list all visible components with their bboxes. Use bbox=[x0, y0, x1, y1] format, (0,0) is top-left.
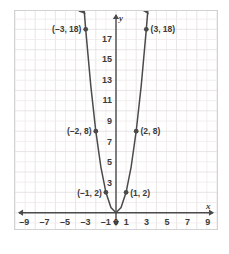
y-tick-label: 3 bbox=[107, 178, 112, 187]
y-tick-label: 5 bbox=[107, 158, 112, 167]
parabola-path bbox=[84, 11, 148, 213]
plotted-point-p-neg3 bbox=[83, 27, 88, 32]
x-tick-label: 5 bbox=[164, 218, 169, 227]
plot-frame bbox=[14, 10, 218, 230]
y-tick-label: 7 bbox=[107, 137, 112, 146]
y-tick-label: 15 bbox=[102, 55, 112, 64]
plotted-point-p-pos3 bbox=[144, 27, 149, 32]
x-tick-label: –1 bbox=[101, 218, 111, 227]
x-tick-label: –3 bbox=[80, 218, 90, 227]
y-tick-label: 9 bbox=[107, 117, 112, 126]
x-tick-label: 1 bbox=[124, 218, 129, 227]
plotted-point-p-pos1 bbox=[124, 190, 129, 195]
x-tick-label: –5 bbox=[60, 218, 70, 227]
y-tick-label: 17 bbox=[102, 34, 112, 43]
x-tick-label: 9 bbox=[205, 218, 210, 227]
point-label-p-pos1: (1, 2) bbox=[130, 189, 150, 198]
plotted-point-p-neg1 bbox=[104, 190, 109, 195]
x-axis-name: x bbox=[206, 202, 211, 211]
x-tick-label: 3 bbox=[144, 218, 149, 227]
y-axis-name: y bbox=[119, 14, 123, 23]
point-label-p-neg3: (–3, 18) bbox=[52, 24, 81, 33]
point-label-p-neg2: (–2, 8) bbox=[67, 127, 92, 136]
y-tick-label: 11 bbox=[102, 96, 112, 105]
point-label-p-neg1: (–1, 2) bbox=[77, 189, 102, 198]
x-tick-label: –9 bbox=[19, 218, 29, 227]
graph-figure: –9–7–5–3–1013579357911131517 (–3, 18)(3,… bbox=[0, 0, 229, 254]
x-tick-label: –7 bbox=[40, 218, 50, 227]
parabola-curve-layer bbox=[15, 11, 217, 229]
x-tick-label: 7 bbox=[185, 218, 190, 227]
plotted-point-p-pos2 bbox=[134, 129, 139, 134]
plotted-point-p-neg2 bbox=[93, 129, 98, 134]
point-label-p-pos2: (2, 8) bbox=[140, 127, 160, 136]
x-tick-label: 0 bbox=[113, 218, 118, 227]
point-label-p-pos3: (3, 18) bbox=[151, 24, 176, 33]
y-tick-label: 13 bbox=[102, 75, 112, 84]
